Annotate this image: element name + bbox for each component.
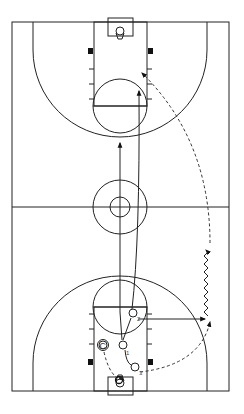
- svg-text:1: 1: [126, 350, 130, 356]
- player-3: 3: [131, 363, 143, 376]
- svg-text:3: 3: [139, 370, 143, 376]
- block-right-bottom: [148, 359, 153, 365]
- player-1: 1: [119, 341, 130, 356]
- dribble-path-right: [204, 250, 208, 316]
- cut-path-player-2: [132, 91, 139, 309]
- player-2: 2: [129, 309, 141, 322]
- coach-pass-path: [104, 352, 116, 377]
- coach: C: [98, 340, 109, 351]
- drill-movements: [104, 73, 210, 377]
- block-left-bottom: [88, 359, 93, 365]
- top-half-court: [33, 18, 207, 137]
- pass-path-long: [142, 73, 210, 243]
- svg-text:C: C: [100, 341, 107, 351]
- basketball-court-diagram: 1 2 3 C: [0, 0, 244, 414]
- block-left-top: [88, 48, 93, 54]
- hoop-top-icon: [116, 27, 124, 35]
- pass-player-1-to-2: [123, 318, 131, 340]
- block-right-top: [148, 48, 153, 54]
- cut-path-player-1: [120, 143, 122, 340]
